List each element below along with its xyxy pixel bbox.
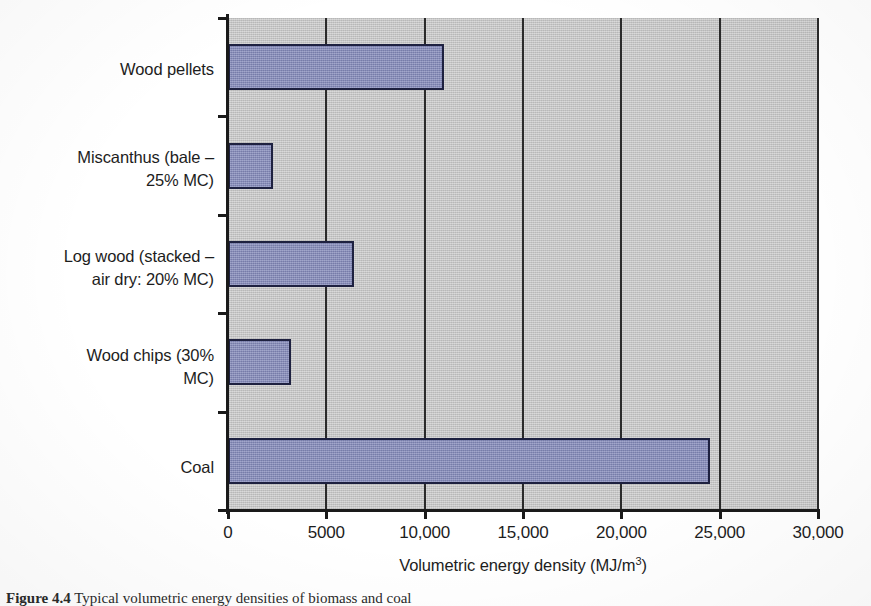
figure-caption-label: Figure 4.4 xyxy=(6,590,71,606)
bar-texture xyxy=(230,145,271,187)
bar xyxy=(228,143,273,189)
bar xyxy=(228,44,444,90)
bar xyxy=(228,438,710,484)
bar xyxy=(228,241,354,287)
x-axis-tick-label: 10,000 xyxy=(399,523,450,543)
x-axis-tick xyxy=(227,509,230,519)
y-axis-label-line: Log wood (stacked – xyxy=(0,245,214,268)
y-axis-label-wood-chips: Wood chips (30% MC) xyxy=(0,344,214,390)
x-axis-tick xyxy=(424,509,427,519)
y-axis-tick xyxy=(218,411,228,414)
y-axis-tick xyxy=(218,17,228,20)
figure-caption: Figure 4.4 Typical volumetric energy den… xyxy=(6,590,866,606)
x-axis-tick-label: 0 xyxy=(223,523,232,543)
x-axis-tick-label: 15,000 xyxy=(498,523,549,543)
x-axis-tick xyxy=(522,509,525,519)
bar-texture xyxy=(230,440,708,482)
figure-container: Wood pellets Miscanthus (bale – 25% MC) … xyxy=(0,0,871,606)
figure-caption-text: Typical volumetric energy densities of b… xyxy=(74,590,411,606)
y-axis-tick xyxy=(218,115,228,118)
y-axis-label-wood-pellets: Wood pellets xyxy=(0,58,214,81)
gridline xyxy=(719,18,721,510)
x-axis-tick-label: 20,000 xyxy=(596,523,647,543)
x-axis-tick xyxy=(817,509,820,519)
gridline xyxy=(522,18,524,510)
x-axis-tick xyxy=(719,509,722,519)
x-axis-tick-label: 25,000 xyxy=(694,523,745,543)
y-axis-label-line: Coal xyxy=(0,456,214,479)
bar-texture xyxy=(230,243,352,285)
x-axis-title-tail: ) xyxy=(641,556,646,574)
y-axis-label-line: 25% MC) xyxy=(0,169,214,192)
bar xyxy=(228,339,291,385)
y-axis-label-line: MC) xyxy=(0,367,214,390)
gridline xyxy=(817,18,819,510)
bar-texture xyxy=(230,46,442,88)
y-axis-label-line: Wood chips (30% xyxy=(0,344,214,367)
y-axis-label-log-wood: Log wood (stacked – air dry: 20% MC) xyxy=(0,245,214,291)
gridline xyxy=(620,18,622,510)
y-axis-tick xyxy=(218,312,228,315)
gridline xyxy=(424,18,426,510)
bar-texture xyxy=(230,341,289,383)
x-axis-tick xyxy=(620,509,623,519)
y-axis-tick xyxy=(218,214,228,217)
y-axis-category-labels: Wood pellets Miscanthus (bale – 25% MC) … xyxy=(0,18,222,510)
y-axis-label-coal: Coal xyxy=(0,456,214,479)
x-axis-tick-label: 5000 xyxy=(308,523,345,543)
x-axis-title-text: Volumetric energy density (MJ/m xyxy=(399,556,635,574)
x-axis-tick xyxy=(325,509,328,519)
y-axis-line xyxy=(226,14,229,514)
y-axis-label-line: air dry: 20% MC) xyxy=(0,268,214,291)
y-axis-label-line: Miscanthus (bale – xyxy=(0,146,214,169)
plot-area xyxy=(228,18,818,510)
y-axis-label-miscanthus: Miscanthus (bale – 25% MC) xyxy=(0,146,214,192)
x-axis-tick-label: 30,000 xyxy=(793,523,844,543)
x-axis-title: Volumetric energy density (MJ/m3) xyxy=(228,556,818,575)
y-axis-label-line: Wood pellets xyxy=(0,58,214,81)
